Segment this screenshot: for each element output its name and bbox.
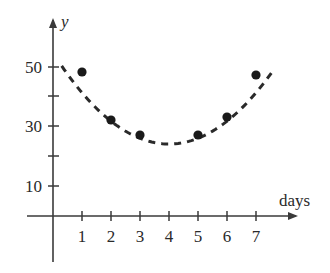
x-tick-label-7: 7 [252, 227, 261, 246]
x-tick-label-2: 2 [107, 227, 116, 246]
y-tick-label-30: 30 [25, 117, 42, 136]
y-tick-label-10: 10 [25, 177, 42, 196]
x-tick-label-5: 5 [194, 227, 203, 246]
x-tick-label-1: 1 [78, 227, 87, 246]
data-point [222, 112, 231, 121]
x-tick-label-3: 3 [136, 227, 145, 246]
data-point [77, 67, 86, 76]
data-point [193, 130, 202, 139]
x-tick-label-6: 6 [223, 227, 232, 246]
x-tick-label-4: 4 [165, 227, 174, 246]
y-axis-label: y [59, 12, 69, 31]
chart-canvas: y days 10 30 50 1 2 3 4 5 6 7 [0, 0, 330, 273]
data-point [251, 70, 260, 79]
data-point [106, 115, 115, 124]
data-point [135, 130, 144, 139]
fit-curve [62, 66, 274, 144]
data-points [77, 67, 260, 139]
y-tick-label-50: 50 [25, 58, 42, 77]
x-axis-label: days [279, 191, 310, 210]
